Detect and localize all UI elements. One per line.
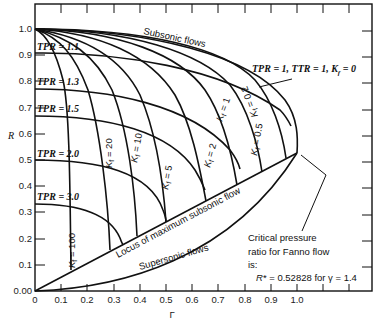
svg-text:R* = 0.52828 for γ = 1.4: R* = 0.52828 for γ = 1.4 — [256, 272, 357, 283]
svg-text:Kf = 1: Kf = 1 — [214, 96, 234, 123]
svg-text:0.1: 0.1 — [19, 259, 32, 270]
label-tpr-1: TPR = 1, TTR = 1, Kf = 0 — [252, 63, 356, 77]
label-tpr-3-0: TPR = 3.0 — [37, 191, 79, 202]
label-kf-5: Kf = 5 — [159, 164, 175, 190]
curve-kf-20 — [35, 29, 110, 250]
label-locus: Locus of maximum subsonic flow — [114, 185, 242, 260]
svg-text:ratio for Fanno flow: ratio for Fanno flow — [248, 246, 329, 257]
label-kf-2: Kf = 2 — [201, 142, 219, 169]
label-tpr-2-0: TPR = 2.0 — [37, 148, 79, 159]
top-axis-ticks — [61, 4, 349, 13]
svg-text:0: 0 — [32, 294, 37, 305]
arrow-critical — [301, 155, 326, 175]
x-axis-ticks — [61, 284, 349, 291]
svg-text:Kf = 2: Kf = 2 — [201, 142, 219, 169]
label-tpr-1-1: TPR = 1.1 — [37, 41, 79, 52]
label-kf-0-2: Kf = 0.2 — [238, 85, 260, 119]
svg-text:0.9: 0.9 — [19, 49, 32, 60]
label-kf-20: Kf = 20 — [103, 138, 115, 168]
svg-text:0.4: 0.4 — [133, 294, 146, 305]
svg-text:Critical pressure: Critical pressure — [248, 232, 317, 243]
svg-text:Kf = 20: Kf = 20 — [103, 138, 115, 168]
x-tick-labels: 0 0.1 0.2 0.3 0.4 0.5 0.6 0.7 0.8 0.9 1.… — [32, 294, 303, 305]
svg-text:0.4: 0.4 — [19, 180, 32, 191]
arrow-critical-leader — [302, 175, 326, 231]
label-subsonic-flows: Subsonic flows — [143, 25, 208, 49]
svg-text:0.00: 0.00 — [14, 285, 33, 296]
label-tpr-1-5: TPR = 1.5 — [37, 103, 79, 114]
svg-text:0.6: 0.6 — [19, 128, 32, 139]
svg-text:0.8: 0.8 — [238, 294, 251, 305]
x-axis-label: Γ — [169, 309, 174, 320]
svg-text:0.5: 0.5 — [159, 294, 172, 305]
svg-text:0.3: 0.3 — [107, 294, 120, 305]
svg-text:0.8: 0.8 — [19, 75, 32, 86]
svg-text:1.0: 1.0 — [19, 23, 32, 34]
svg-text:Kf = 10: Kf = 10 — [128, 132, 145, 163]
label-supersonic-flows: Supersonic flows — [138, 241, 210, 271]
label-tpr-1-3: TPR = 1.3 — [37, 76, 79, 87]
svg-text:is:: is: — [248, 259, 258, 270]
svg-text:0.7: 0.7 — [211, 294, 224, 305]
svg-text:0.7: 0.7 — [19, 102, 32, 113]
svg-text:0.3: 0.3 — [19, 206, 32, 217]
y-axis-label: R — [7, 130, 14, 141]
svg-text:0.2: 0.2 — [19, 233, 32, 244]
svg-text:Kf = 0.2: Kf = 0.2 — [238, 85, 260, 119]
label-critical-pressure: Critical pressure ratio for Fanno flow i… — [248, 232, 357, 283]
label-kf-100: Kf = 100 — [66, 233, 78, 268]
svg-text:1.0: 1.0 — [290, 294, 303, 305]
svg-text:0.1: 0.1 — [54, 294, 67, 305]
svg-text:Kf = 100: Kf = 100 — [66, 233, 78, 268]
svg-text:0.9: 0.9 — [264, 294, 277, 305]
svg-text:0.2: 0.2 — [80, 294, 93, 305]
svg-text:Kf = 5: Kf = 5 — [159, 164, 175, 190]
y-axis-ticks — [35, 29, 45, 265]
fanno-flow-chart: 0 0.1 0.2 0.3 0.4 0.5 0.6 0.7 0.8 0.9 1.… — [0, 0, 379, 322]
right-axis-ticks — [362, 31, 372, 267]
y-tick-labels: 0.00 0.1 0.2 0.3 0.4 0.5 0.6 0.7 0.8 0.9… — [14, 23, 33, 296]
label-kf-1: Kf = 1 — [214, 96, 234, 123]
label-kf-10: Kf = 10 — [128, 132, 145, 163]
svg-text:0.5: 0.5 — [19, 154, 32, 165]
svg-text:0.6: 0.6 — [185, 294, 198, 305]
